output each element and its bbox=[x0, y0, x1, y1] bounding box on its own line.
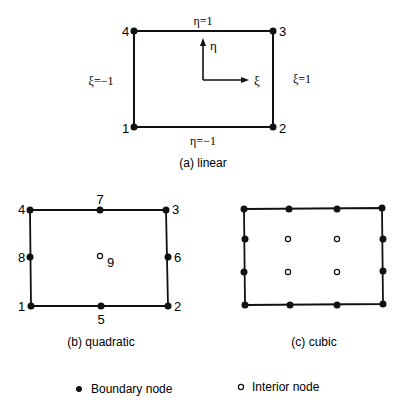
boundary-node bbox=[286, 206, 293, 213]
edge-label-top: η=1 bbox=[193, 14, 212, 28]
node-label: 4 bbox=[122, 24, 129, 39]
cubic-element-outline bbox=[244, 208, 383, 305]
boundary-node bbox=[97, 207, 104, 214]
cubic-element: (c) cubic bbox=[241, 205, 387, 350]
boundary-node bbox=[270, 124, 277, 131]
legend-boundary-label: Boundary node bbox=[91, 382, 173, 396]
boundary-node bbox=[241, 206, 248, 213]
interior-node bbox=[285, 236, 290, 241]
element-diagram: 4 3 2 1 η=1 η=−1 ξ=−1 ξ=1 η ξ (a) linear… bbox=[0, 0, 403, 416]
node-label: 2 bbox=[279, 121, 286, 136]
boundary-node bbox=[379, 205, 386, 212]
node-label: 2 bbox=[174, 299, 181, 314]
node-label: 7 bbox=[96, 192, 103, 207]
edge-label-left: ξ=−1 bbox=[89, 74, 114, 88]
cubic-interior-nodes bbox=[285, 236, 339, 274]
node-label: 3 bbox=[172, 202, 179, 217]
boundary-node bbox=[270, 28, 277, 35]
boundary-node bbox=[334, 206, 341, 213]
boundary-node-legend-icon bbox=[76, 386, 82, 392]
interior-node bbox=[97, 253, 102, 258]
node-label: 1 bbox=[18, 299, 25, 314]
caption-quadratic: (b) quadratic bbox=[67, 335, 134, 349]
boundary-node bbox=[165, 254, 172, 261]
interior-node bbox=[334, 269, 339, 274]
quadratic-element: 1 2 3 4 5 6 7 8 9 (b) quadratic bbox=[18, 192, 181, 349]
xi-arrowhead-icon bbox=[241, 77, 249, 83]
cubic-boundary-nodes bbox=[241, 205, 387, 309]
boundary-node bbox=[27, 254, 34, 261]
legend: Boundary node Interior node bbox=[76, 380, 320, 396]
node-label: 3 bbox=[279, 24, 286, 39]
boundary-node bbox=[163, 207, 170, 214]
boundary-node bbox=[241, 269, 248, 276]
node-label: 9 bbox=[107, 255, 114, 270]
edge-label-right: ξ=1 bbox=[293, 72, 311, 86]
boundary-node bbox=[28, 303, 35, 310]
boundary-node bbox=[334, 302, 341, 309]
node-label: 6 bbox=[174, 250, 181, 265]
boundary-node bbox=[242, 236, 249, 243]
caption-cubic: (c) cubic bbox=[291, 335, 336, 349]
boundary-node bbox=[131, 28, 138, 35]
eta-arrowhead-icon bbox=[200, 38, 206, 46]
node-label: 1 bbox=[122, 121, 129, 136]
boundary-node bbox=[131, 124, 138, 131]
xi-label: ξ bbox=[254, 73, 260, 88]
boundary-node bbox=[380, 268, 387, 275]
boundary-node bbox=[27, 207, 34, 214]
edge-label-bottom: η=−1 bbox=[190, 134, 216, 148]
boundary-node bbox=[98, 303, 105, 310]
boundary-node bbox=[242, 302, 249, 309]
boundary-node bbox=[380, 301, 387, 308]
interior-node-legend-icon bbox=[238, 384, 243, 389]
node-label: 4 bbox=[18, 202, 25, 217]
node-label: 5 bbox=[97, 312, 104, 327]
boundary-node bbox=[380, 236, 387, 243]
boundary-node bbox=[287, 302, 294, 309]
caption-linear: (a) linear bbox=[179, 156, 226, 170]
node-label: 8 bbox=[18, 250, 25, 265]
interior-node bbox=[285, 269, 290, 274]
boundary-node bbox=[165, 303, 172, 310]
interior-node bbox=[334, 236, 339, 241]
eta-label: η bbox=[210, 38, 217, 53]
linear-element: 4 3 2 1 η=1 η=−1 ξ=−1 ξ=1 η ξ (a) linear bbox=[89, 14, 312, 170]
legend-interior-label: Interior node bbox=[252, 380, 320, 394]
